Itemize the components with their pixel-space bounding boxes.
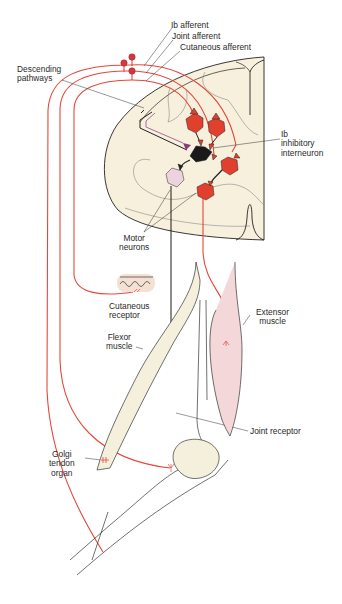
label-ib-afferent: Ib afferent bbox=[171, 21, 209, 30]
label-cutaneous-afferent: Cutaneous afferent bbox=[180, 43, 251, 52]
cutaneous-receptor bbox=[117, 274, 155, 292]
label-motor-neurons: Motor neurons bbox=[119, 234, 149, 253]
label-descending-pathways: Descending pathways bbox=[17, 65, 61, 84]
limb bbox=[70, 262, 242, 575]
label-ib-inhibitory-interneuron: Ib inhibitory interneuron bbox=[281, 130, 323, 158]
label-joint-afferent: Joint afferent bbox=[172, 32, 220, 41]
neural-circuit-diagram bbox=[0, 0, 342, 604]
label-extensor-muscle: Extensor muscle bbox=[256, 308, 289, 327]
label-cutaneous-receptor: Cutaneous receptor bbox=[109, 302, 150, 321]
label-flexor-muscle: Flexor muscle bbox=[106, 333, 133, 352]
dorsal-root-ganglia bbox=[121, 54, 135, 80]
label-golgi-tendon-organ: Golgi tendon organ bbox=[49, 450, 75, 478]
label-joint-receptor: Joint receptor bbox=[250, 427, 301, 436]
